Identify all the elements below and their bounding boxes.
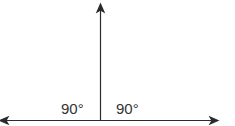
angle-label-left: 90° [61,101,84,116]
angle-label-right: 90° [116,101,139,116]
diagram-canvas: 90° 90° [0,0,235,126]
